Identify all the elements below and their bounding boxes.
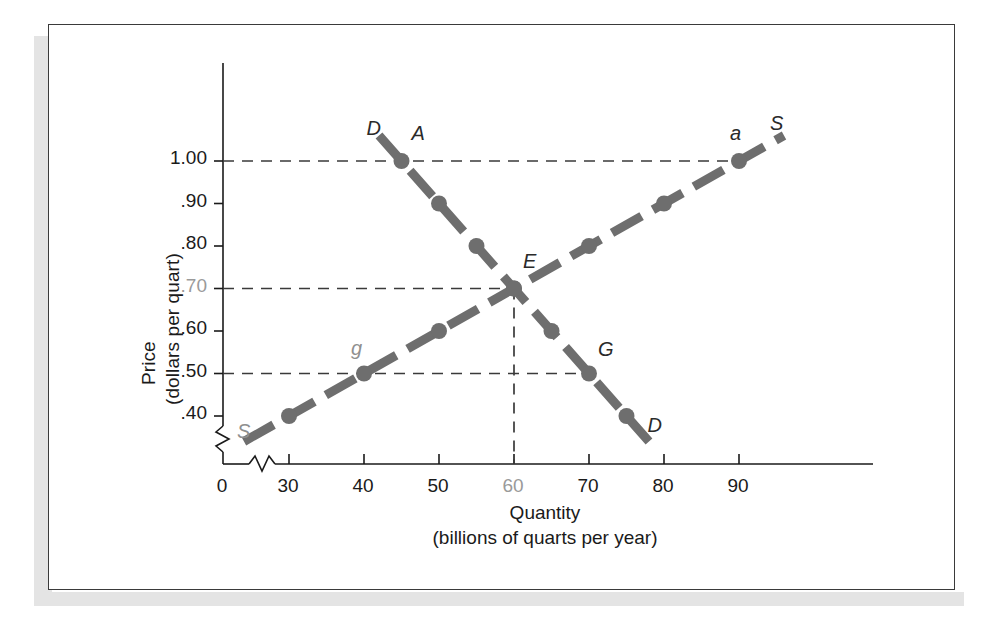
x-tick-label-7: 90 — [698, 475, 778, 497]
x-axis-title: Quantity (billions of quarts per year) — [330, 500, 760, 550]
y-tick-label-6: .40 — [127, 402, 207, 424]
y-tick-label-0: 1.00 — [127, 147, 207, 169]
figure-page: Price (dollars per quart) Quantity (bill… — [0, 0, 982, 625]
point-label-E: E — [523, 250, 536, 273]
data-point-demand-1 — [431, 196, 447, 212]
x-tick-label-4: 60 — [473, 475, 553, 497]
point-label-G: G — [598, 338, 614, 361]
y-tick-label-3: .70 — [127, 275, 207, 297]
point-label-a: a — [730, 122, 741, 145]
data-point-supply-4 — [581, 238, 597, 254]
data-point-supply-5 — [656, 196, 672, 212]
data-point-supply-3 — [506, 281, 522, 297]
x-tick-label-2: 40 — [323, 475, 403, 497]
y-tick-label-5: .50 — [127, 360, 207, 382]
curve-label-demand-bottom: D — [648, 414, 662, 437]
data-point-supply-1 — [356, 366, 372, 382]
data-point-demand-5 — [581, 366, 597, 382]
point-label-g: g — [351, 337, 362, 360]
x-tick-label-6: 80 — [623, 475, 703, 497]
x-tick-label-3: 50 — [398, 475, 478, 497]
page-shadow-band-bottom — [34, 592, 964, 606]
data-point-demand-6 — [619, 408, 635, 424]
x-tick-label-5: 70 — [548, 475, 628, 497]
data-point-supply-0 — [281, 408, 297, 424]
curve-label-supply-bottom: S — [237, 420, 250, 443]
x-axis-title-line1: Quantity — [330, 500, 760, 525]
curve-label-demand-top: D — [367, 117, 381, 140]
y-tick-label-4: .60 — [127, 317, 207, 339]
data-point-demand-0 — [394, 153, 410, 169]
data-point-demand-4 — [544, 323, 560, 339]
x-tick-label-1: 30 — [248, 475, 328, 497]
y-tick-label-1: .90 — [127, 190, 207, 212]
data-point-supply-6 — [731, 153, 747, 169]
point-label-A: A — [412, 122, 425, 145]
curve-label-supply-top: S — [770, 112, 783, 135]
data-point-demand-2 — [469, 238, 485, 254]
data-point-supply-2 — [431, 323, 447, 339]
y-tick-label-2: .80 — [127, 232, 207, 254]
x-axis-title-line2: (billions of quarts per year) — [330, 525, 760, 550]
